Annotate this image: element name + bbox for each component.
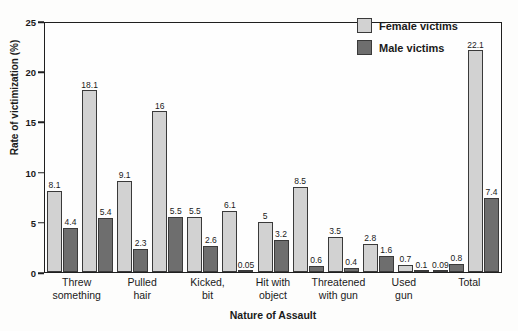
bar-pair: 3.50.4 [326, 23, 361, 272]
bar-male: 7.4 [484, 198, 499, 272]
bar-value-label: 18.1 [81, 81, 98, 90]
bar-female: 18.1 [82, 90, 97, 272]
bar-value-label: 2.8 [364, 234, 376, 243]
bar-female: 3.5 [328, 237, 343, 272]
bar-value-label: 0.1 [415, 261, 427, 270]
x-axis-tick-labels: ThrewsomethingPulledhairKicked,bitHit wi… [44, 276, 502, 301]
bar-female: 16 [152, 111, 167, 272]
legend: Female victims Male victims [357, 18, 458, 62]
legend-item-female: Female victims [357, 18, 458, 33]
x-axis-category-line: Kicked, [175, 276, 240, 289]
bar-male: 0.6 [309, 266, 324, 272]
bar-value-label: 5.4 [100, 208, 112, 217]
bar-pair: 8.50.6 [291, 23, 326, 272]
bar-value-label: 3.2 [275, 230, 287, 239]
x-axis-category-line: Threw [44, 276, 109, 289]
x-axis-category-line: Used [371, 276, 436, 289]
bar-female: 2.8 [363, 244, 378, 272]
legend-swatch-icon [357, 40, 372, 55]
bar-value-label: 0.05 [238, 261, 255, 270]
bar-female: 8.5 [293, 187, 308, 272]
bar-male: 0.05 [238, 270, 253, 272]
legend-item-label: Female victims [379, 20, 458, 32]
bar-value-label: 4.4 [65, 218, 77, 227]
legend-item-male: Male victims [357, 40, 458, 55]
bar-value-label: 5.5 [170, 207, 182, 216]
x-axis-category-label: Pulledhair [109, 276, 174, 301]
bar-value-label: 7.4 [486, 188, 498, 197]
bar-female: 8.1 [47, 191, 62, 272]
bar-value-label: 0.09 [432, 261, 449, 270]
bar-male: 2.6 [203, 246, 218, 272]
x-axis-category-label: Usedgun [371, 276, 436, 301]
bar-pair: 8.14.4 [45, 23, 80, 272]
x-axis-category-label: Hit withobject [240, 276, 305, 301]
bar-male: 0.8 [449, 264, 464, 272]
bar-value-label: 3.5 [329, 227, 341, 236]
bar-value-label: 9.1 [119, 171, 131, 180]
bar-female: 0.7 [398, 265, 413, 272]
bar-pair: 53.2 [255, 23, 290, 272]
chart-figure: Rate of victimization (%) 0510152025 8.1… [0, 0, 518, 331]
bar-value-label: 1.6 [380, 246, 392, 255]
x-axis-category-line: bit [175, 289, 240, 302]
bar-value-label: 2.3 [135, 239, 147, 248]
y-axis: Rate of victimization (%) 0510152025 [0, 0, 44, 295]
legend-swatch-icon [357, 18, 372, 33]
x-axis-category-line: gun [371, 289, 436, 302]
bar-value-label: 8.1 [49, 181, 61, 190]
x-axis-category-line: Threatened [306, 276, 371, 289]
x-axis-category-label: Threatenedwith gun [306, 276, 371, 301]
x-axis-category-label: Total [437, 276, 502, 301]
x-axis-category-line: Pulled [109, 276, 174, 289]
x-axis-category-line: with gun [306, 289, 371, 302]
bar-female: 5.5 [187, 217, 202, 272]
x-axis-category-label: Threwsomething [44, 276, 109, 301]
bar-value-label: 22.1 [467, 41, 484, 50]
bar-female: 6.1 [222, 211, 237, 272]
bar-pair: 22.17.4 [466, 23, 501, 272]
bar-value-label: 0.8 [450, 254, 462, 263]
bar-male: 0.1 [414, 270, 429, 272]
bar-male: 2.3 [133, 249, 148, 272]
bar-male: 5.4 [98, 218, 113, 272]
legend-item-label: Male victims [379, 42, 444, 54]
bar-female: 22.1 [468, 50, 483, 272]
bar-male: 0.4 [344, 268, 359, 272]
bar-value-label: 5.5 [189, 207, 201, 216]
bar-female: 9.1 [117, 181, 132, 272]
bar-pair: 18.15.4 [80, 23, 115, 272]
bar-pair: 5.52.6 [185, 23, 220, 272]
bar-value-label: 2.6 [205, 236, 217, 245]
x-axis-category-line: Total [437, 276, 502, 289]
x-axis-category-line: Hit with [240, 276, 305, 289]
bar-pair: 9.12.3 [115, 23, 150, 272]
bar-pair: 165.5 [150, 23, 185, 272]
bar-male: 5.5 [168, 217, 183, 272]
bar-value-label: 0.6 [310, 256, 322, 265]
bar-value-label: 0.7 [399, 255, 411, 264]
x-axis-category-line: object [240, 289, 305, 302]
x-axis-title: Nature of Assault [44, 309, 502, 321]
bar-male: 1.6 [379, 256, 394, 272]
bar-male: 4.4 [63, 228, 78, 272]
x-axis-category-label: Kicked,bit [175, 276, 240, 301]
bar-value-label: 5 [263, 212, 268, 221]
bar-value-label: 6.1 [224, 201, 236, 210]
x-axis-category-line: something [44, 289, 109, 302]
bar-male: 3.2 [274, 240, 289, 272]
bar-value-label: 16 [155, 102, 164, 111]
bar-female: 0.09 [433, 270, 448, 272]
bar-female: 5 [258, 222, 273, 272]
bar-pair: 6.10.05 [220, 23, 255, 272]
bar-value-label: 8.5 [294, 177, 306, 186]
x-axis-category-line: hair [109, 289, 174, 302]
bar-value-label: 0.4 [345, 258, 357, 267]
